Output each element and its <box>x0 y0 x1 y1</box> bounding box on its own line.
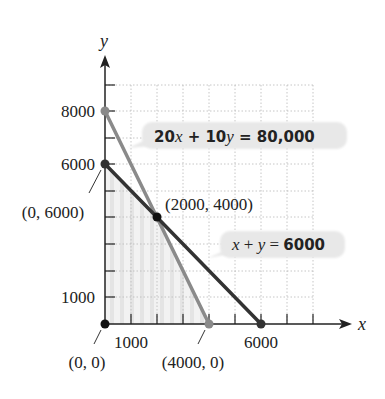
y-tick-8000: 8000 <box>61 102 95 121</box>
equation-label-2: x + y = 6000 <box>231 235 325 254</box>
x-tick-1000: 1000 <box>114 333 148 352</box>
equation-label-1: 20x + 10y = 80,000 <box>154 127 315 146</box>
y-tick-6000: 6000 <box>61 155 95 174</box>
point-label-0-6000: (0, 6000) <box>22 203 84 222</box>
point-label-4000-0: (4000, 0) <box>162 353 224 372</box>
point-label-0-0: (0, 0) <box>69 353 106 372</box>
x-tick-6000: 6000 <box>244 333 278 352</box>
x-axis-label: x <box>357 314 366 334</box>
point-0-8000 <box>101 107 110 116</box>
point-4000-0 <box>205 320 214 329</box>
point-label-2000-4000: (2000, 4000) <box>165 195 253 214</box>
y-tick-1000: 1000 <box>61 288 95 307</box>
point-0-6000 <box>101 160 110 169</box>
y-axis-label: y <box>98 31 108 51</box>
chart: y x 8000 6000 1000 1000 6000 (0, 6000) (… <box>0 0 385 399</box>
point-6000-0 <box>257 320 266 329</box>
point-0-0 <box>101 320 110 329</box>
point-2000-4000 <box>153 213 162 222</box>
